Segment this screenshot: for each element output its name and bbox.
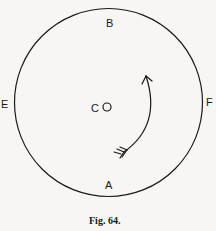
label-f: F <box>206 96 213 108</box>
label-c: C <box>91 102 99 114</box>
rotation-arrow-icon <box>114 76 152 158</box>
label-e: E <box>1 98 8 110</box>
center-point-icon <box>103 103 111 111</box>
outer-circle <box>15 9 203 197</box>
figure-caption: Fig. 64. <box>89 215 121 226</box>
label-b: B <box>106 17 113 29</box>
label-a: A <box>105 179 113 191</box>
figure-diagram: B A E F C Fig. 64. <box>0 0 216 231</box>
